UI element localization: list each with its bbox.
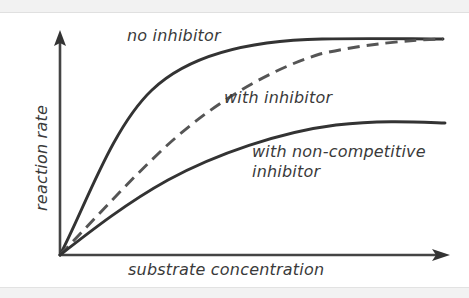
series-label-noncompetitive-line1: with non-competitive [252,142,426,161]
y-axis-label: reaction rate [32,98,52,218]
x-axis-label: substrate concentration [128,260,324,280]
series-label-with-inhibitor: with inhibitor [224,88,332,108]
enzyme-inhibition-figure: no inhibitor with inhibitor with non-com… [0,0,469,298]
series-label-no-inhibitor: no inhibitor [127,26,221,46]
series-label-noncompetitive-line2: inhibitor [252,162,320,181]
series-label-with-noncompetitive-inhibitor: with non-competitiveinhibitor [252,142,426,182]
